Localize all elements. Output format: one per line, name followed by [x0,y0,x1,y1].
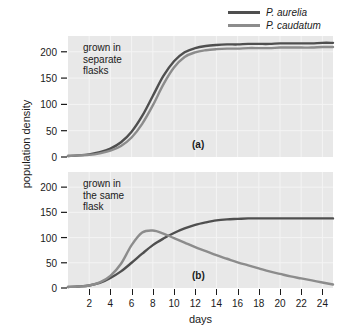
y-tick-label: 0 [17,152,57,163]
x-tick-mark [89,289,90,295]
panel-tag: (a) [192,139,204,150]
y-tick-label: 100 [17,232,57,243]
x-tick-label: 12 [185,298,205,309]
x-tick-mark [153,289,154,295]
x-tick-label: 22 [291,298,311,309]
x-tick-mark [110,289,111,295]
x-tick-mark [238,289,239,295]
x-tick-mark [280,289,281,295]
panel-tag: (b) [192,270,205,281]
panel-annotation: grown in separate flasks [83,42,122,77]
y-tick-label: 0 [17,283,57,294]
x-tick-mark [174,289,175,295]
x-tick-mark [259,289,260,295]
x-tick-label: 4 [100,298,120,309]
x-tick-mark [132,289,133,295]
x-tick-mark [216,289,217,295]
y-tick-label: 100 [17,99,57,110]
panel-annotation: grown in the same flask [83,178,124,213]
y-tick-label: 50 [17,125,57,136]
x-tick-label: 2 [79,298,99,309]
x-tick-label: 6 [122,298,142,309]
x-tick-label: 14 [206,298,226,309]
y-tick-label: 150 [17,207,57,218]
y-tick-label: 150 [17,73,57,84]
y-tick-label: 50 [17,257,57,268]
y-tick-label: 200 [17,46,57,57]
figure-root: P. aurelia P. caudatum population densit… [0,0,341,335]
x-tick-label: 16 [228,298,248,309]
x-tick-label: 18 [249,298,269,309]
x-tick-label: 10 [164,298,184,309]
x-tick-mark [301,289,302,295]
x-tick-mark [322,289,323,295]
y-tick-label: 200 [17,182,57,193]
x-tick-mark [195,289,196,295]
x-tick-label: 8 [143,298,163,309]
x-tick-label: 20 [270,298,290,309]
x-tick-label: 24 [312,298,332,309]
